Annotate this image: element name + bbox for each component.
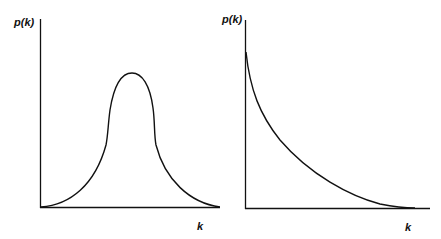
left-x-axis-label: k [197,221,203,232]
left-bell-curve [41,73,220,207]
right-x-axis-label: k [405,222,411,233]
right-y-axis-label: p(k) [222,14,242,25]
figure [0,0,441,239]
right-chart [245,20,430,209]
left-chart [40,19,220,208]
left-y-axis-label: p(k) [14,17,34,28]
right-decay-curve [246,52,415,208]
